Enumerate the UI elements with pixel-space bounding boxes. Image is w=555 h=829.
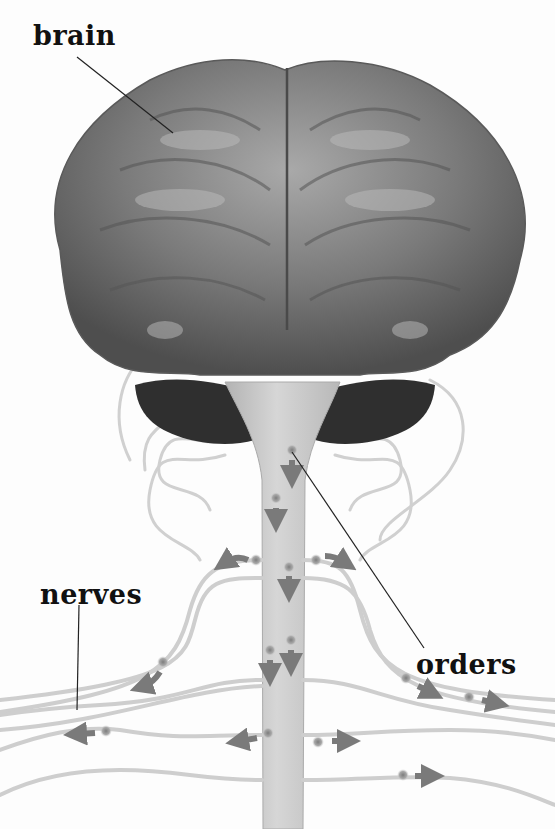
nervous-system-diagram: brain nerves orders bbox=[0, 0, 555, 829]
arrow-left-icon bbox=[78, 733, 95, 734]
nerves-leader-line bbox=[77, 605, 79, 710]
arrow-left-icon bbox=[240, 738, 257, 741]
illustration bbox=[0, 0, 555, 829]
label-brain: brain bbox=[33, 22, 116, 49]
label-nerves: nerves bbox=[40, 581, 142, 608]
arrow-right-icon bbox=[482, 700, 495, 703]
spinal-cord bbox=[225, 382, 340, 829]
label-orders: orders bbox=[416, 651, 517, 678]
arrow-right-icon bbox=[418, 686, 430, 692]
orders-leader-line bbox=[292, 452, 424, 648]
brain-shape bbox=[55, 60, 525, 375]
